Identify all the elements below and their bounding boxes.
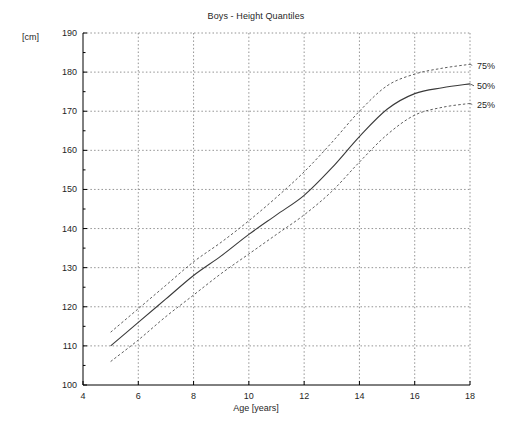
series-line-75pct (111, 64, 470, 332)
axes-frame (83, 33, 470, 385)
x-tick-label: 18 (457, 391, 483, 401)
y-tick-label: 120 (51, 302, 77, 312)
x-tick-label: 8 (181, 391, 207, 401)
series-label-50pct: 50% (477, 81, 495, 91)
series-line-25pct (111, 103, 470, 361)
x-tick-label: 10 (236, 391, 262, 401)
y-tick-label: 140 (51, 224, 77, 234)
y-tick-label: 180 (51, 67, 77, 77)
grid-layer (83, 33, 470, 385)
x-tick-label: 14 (346, 391, 372, 401)
series-leader-lines (470, 64, 474, 105)
y-tick-label: 160 (51, 145, 77, 155)
y-tick-label: 190 (51, 28, 77, 38)
series-label-25pct: 25% (477, 100, 495, 110)
series-leader-50pct (470, 84, 474, 86)
plot-canvas (0, 0, 512, 435)
y-tick-label: 100 (51, 380, 77, 390)
x-tick-label: 16 (402, 391, 428, 401)
x-tick-label: 6 (125, 391, 151, 401)
y-axis-unit-label: [cm] (22, 33, 39, 42)
series-label-75pct: 75% (477, 61, 495, 71)
chart-title: Boys - Height Quantiles (0, 12, 512, 21)
axis-ticks (83, 33, 470, 385)
y-tick-label: 150 (51, 184, 77, 194)
series-leader-75pct (470, 64, 474, 66)
data-series-layer (111, 64, 470, 361)
y-tick-label: 130 (51, 263, 77, 273)
x-axis-title: Age [years] (0, 404, 512, 413)
y-tick-label: 110 (51, 341, 77, 351)
x-tick-label: 12 (291, 391, 317, 401)
series-leader-25pct (470, 103, 474, 105)
x-tick-label: 4 (70, 391, 96, 401)
chart-figure: Boys - Height Quantiles [cm] Age [years]… (0, 0, 512, 435)
y-tick-label: 170 (51, 106, 77, 116)
